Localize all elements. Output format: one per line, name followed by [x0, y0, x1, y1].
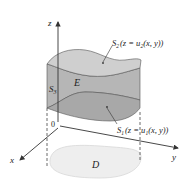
top-surface-label: S2(z = u2(x, y)) — [112, 38, 164, 49]
solid-region-diagram: z y x 0 E D S3 S2(z = u2(x, y)) S1(z = u… — [0, 0, 196, 190]
z-axis-label: z — [47, 18, 52, 28]
x-axis-label: x — [9, 155, 14, 165]
origin-label: 0 — [51, 120, 55, 129]
y-axis-label: y — [171, 152, 176, 162]
bottom-surface-label: S1(z = u1(x, y)) — [117, 125, 169, 136]
s1-leader-dot — [106, 106, 108, 108]
s2-leader-dot — [102, 62, 104, 64]
region-label-d: D — [91, 159, 100, 170]
solid-label-e: E — [73, 77, 80, 88]
